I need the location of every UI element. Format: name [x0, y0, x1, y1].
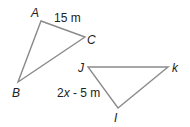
side-label-ji: 2x - 5 m: [57, 86, 100, 100]
side-label-ac: 15 m: [54, 11, 81, 25]
diagram-canvas: A C B 15 m J k I 2x - 5 m: [0, 0, 190, 127]
vertex-label-j: J: [77, 61, 85, 75]
vertex-label-a: A: [30, 6, 39, 20]
vertex-label-b: B: [12, 86, 20, 100]
triangle-abc: [18, 21, 85, 82]
vertex-label-c: C: [87, 33, 96, 47]
side-label-ji-rest: - 5 m: [70, 86, 101, 100]
vertex-label-i: I: [114, 111, 118, 125]
vertex-label-k: k: [172, 61, 179, 75]
